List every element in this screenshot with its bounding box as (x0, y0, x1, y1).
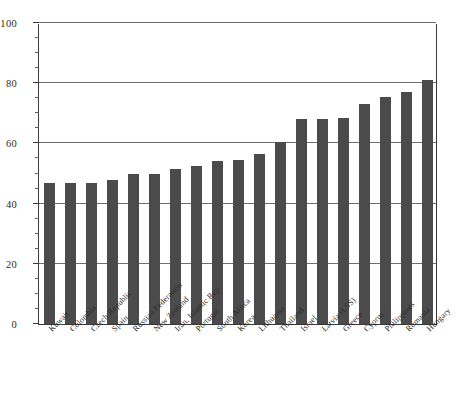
bar (275, 142, 286, 324)
gridline-100 (39, 22, 436, 23)
bar-series (39, 24, 436, 324)
bar (317, 119, 328, 324)
bar (128, 174, 139, 325)
y-tick-label-0: 0 (0, 319, 17, 330)
bar (422, 80, 433, 324)
y-tick-label-80: 80 (0, 78, 17, 89)
y-tick-label-20: 20 (0, 259, 17, 270)
bar (65, 183, 76, 324)
bar (212, 161, 223, 324)
plot-area (38, 24, 437, 325)
y-tick-label-100: 100 (0, 18, 17, 29)
bar (254, 154, 265, 324)
bar (296, 119, 307, 324)
bar (359, 104, 370, 324)
bar (380, 97, 391, 324)
bar (401, 92, 412, 324)
y-tick-label-60: 60 (0, 138, 17, 149)
bar-chart: 020406080100 KuwaitColombiaCzech Republi… (0, 0, 459, 402)
bar (338, 118, 349, 324)
x-axis-category-labels: KuwaitColombiaCzech RepublicSpainRussian… (38, 327, 437, 399)
major-tick-100 (33, 22, 39, 23)
bar (44, 183, 55, 324)
y-tick-label-40: 40 (0, 199, 17, 210)
